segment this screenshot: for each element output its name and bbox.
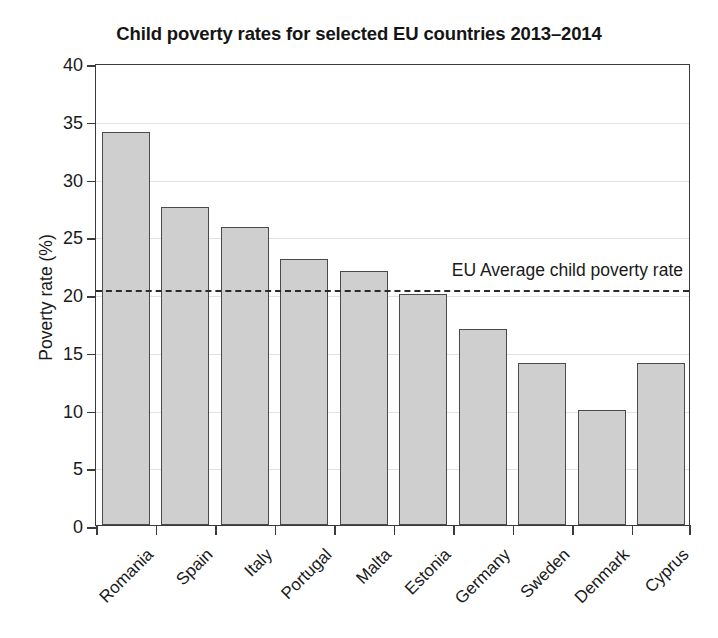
x-tick-mark (394, 525, 396, 535)
x-tick-mark (572, 525, 574, 535)
y-tick-label: 0 (73, 517, 83, 538)
y-tick-mark (87, 527, 96, 529)
bar (637, 363, 685, 525)
y-tick-mark (87, 469, 96, 471)
y-tick-mark (87, 296, 96, 298)
x-tick-mark (275, 525, 277, 535)
x-tick-mark (334, 525, 336, 535)
y-tick-mark (87, 412, 96, 414)
y-tick-label: 25 (63, 228, 83, 249)
x-tick-mark (453, 525, 455, 535)
gridline (96, 181, 689, 182)
x-tick-mark (215, 525, 217, 535)
bar (518, 363, 566, 525)
eu-average-label: EU Average child poverty rate (452, 260, 683, 281)
y-axis-title: Poverty rate (%) (36, 148, 57, 448)
bar (578, 410, 626, 526)
x-tick-mark (96, 525, 98, 535)
x-tick-mark (156, 525, 158, 535)
y-tick-label: 30 (63, 170, 83, 191)
y-tick-mark (87, 123, 96, 125)
bar (340, 271, 388, 525)
chart-title: Child poverty rates for selected EU coun… (0, 23, 718, 45)
y-tick-mark (87, 65, 96, 67)
plot-area: 0510152025303540 EU Average child povert… (95, 64, 690, 526)
bar (399, 294, 447, 525)
bar (280, 259, 328, 525)
y-tick-label: 20 (63, 286, 83, 307)
y-tick-mark (87, 354, 96, 356)
y-tick-label: 35 (63, 112, 83, 133)
chart-figure: Child poverty rates for selected EU coun… (0, 0, 718, 638)
y-tick-label: 40 (63, 55, 83, 76)
bar (221, 227, 269, 525)
bar (102, 132, 150, 525)
y-tick-mark (87, 181, 96, 183)
x-tick-mark (513, 525, 515, 535)
bar (459, 329, 507, 525)
y-tick-label: 5 (73, 459, 83, 480)
bar (161, 207, 209, 525)
x-tick-mark (689, 525, 691, 535)
x-tick-mark (632, 525, 634, 535)
y-tick-label: 15 (63, 343, 83, 364)
eu-average-line (96, 290, 689, 292)
y-tick-mark (87, 238, 96, 240)
gridline (96, 123, 689, 124)
y-tick-label: 10 (63, 401, 83, 422)
